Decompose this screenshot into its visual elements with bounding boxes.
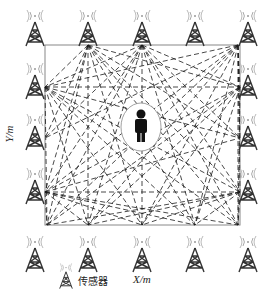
antenna-tower-icon — [239, 236, 257, 272]
antenna-tower-icon — [26, 236, 44, 272]
antenna-tower-icon — [239, 10, 257, 46]
antenna-tower-icon — [26, 63, 44, 99]
antenna-tower-icon — [79, 236, 97, 272]
antenna-tower-icon — [239, 114, 257, 150]
antenna-tower-icon — [56, 262, 76, 290]
antenna-tower-icon — [186, 10, 204, 46]
antenna-tower-icon — [239, 168, 257, 204]
antenna-tower-icon — [79, 10, 97, 46]
person-icon — [121, 103, 161, 151]
legend-label: 传感器 — [78, 273, 108, 288]
antenna-tower-icon — [26, 168, 44, 204]
antenna-tower-icon — [26, 10, 44, 46]
antenna-tower-icon — [133, 236, 151, 272]
antenna-tower-icon — [239, 63, 257, 99]
antenna-tower-icon — [186, 236, 204, 272]
y-axis-label: Y/m — [3, 125, 15, 142]
antenna-tower-icon — [26, 114, 44, 150]
antenna-tower-icon — [133, 10, 151, 46]
sensor-network-diagram — [0, 0, 266, 296]
x-axis-label: X/m — [133, 273, 151, 285]
